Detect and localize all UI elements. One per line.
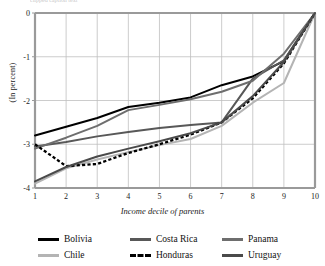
legend-label: Uruguay — [248, 250, 281, 261]
legend-item-uruguay[interactable]: Uruguay — [222, 250, 308, 261]
legend-item-panama[interactable]: Panama — [222, 234, 308, 245]
y-tick-label: 0 — [26, 9, 30, 18]
chart-legend: BoliviaCosta RicaPanamaChileHondurasUrug… — [38, 231, 308, 263]
legend-item-bolivia[interactable]: Bolivia — [38, 234, 130, 245]
x-tick-label: 8 — [251, 192, 255, 201]
x-tick-label: 9 — [282, 192, 286, 201]
line-chart-svg: 0-1-2-3-412345678910 — [0, 0, 325, 205]
x-tick-label: 7 — [220, 192, 224, 201]
legend-swatch-icon — [130, 254, 151, 257]
y-tick-label: -3 — [23, 140, 30, 149]
x-tick-label: 3 — [95, 192, 99, 201]
chart-container: clipped caption text 0-1-2-3-41234567891… — [0, 0, 325, 266]
legend-label: Chile — [64, 250, 85, 261]
legend-swatch-icon — [222, 254, 243, 257]
legend-item-chile[interactable]: Chile — [38, 250, 130, 261]
legend-swatch-icon — [130, 238, 151, 241]
legend-label: Honduras — [156, 250, 193, 261]
x-axis-title: Income decile of parents — [0, 206, 325, 216]
legend-swatch-icon — [38, 254, 59, 257]
x-tick-label: 6 — [189, 192, 193, 201]
legend-label: Bolivia — [64, 234, 92, 245]
x-tick-label: 2 — [64, 192, 68, 201]
legend-label: Costa Rica — [156, 234, 197, 245]
legend-label: Panama — [248, 234, 278, 245]
x-tick-label: 10 — [311, 192, 319, 201]
y-tick-label: -1 — [23, 53, 30, 62]
plot-area: 0-1-2-3-412345678910 — [0, 0, 325, 205]
legend-item-costa-rica[interactable]: Costa Rica — [130, 234, 222, 245]
y-axis-title: (In percent) — [8, 43, 17, 123]
x-tick-label: 1 — [33, 192, 37, 201]
legend-swatch-icon — [38, 238, 59, 241]
x-tick-label: 4 — [126, 192, 130, 201]
x-tick-label: 5 — [157, 192, 161, 201]
y-tick-label: -4 — [23, 184, 30, 193]
y-tick-label: -2 — [23, 97, 30, 106]
legend-item-honduras[interactable]: Honduras — [130, 250, 222, 261]
legend-swatch-icon — [222, 238, 243, 241]
